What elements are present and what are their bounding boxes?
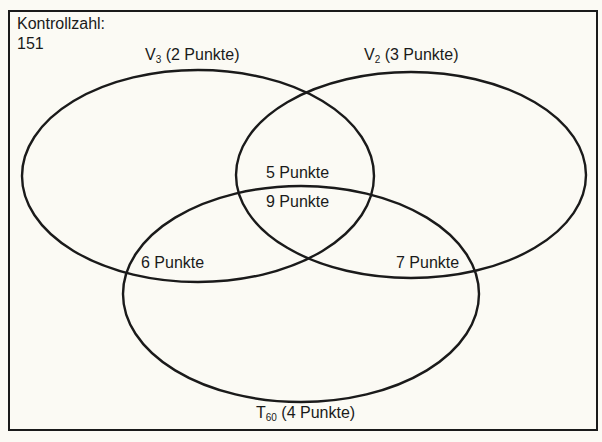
region-v3-t60: 6 Punkte [141, 254, 204, 272]
region-v3-v2-t60: 9 Punkte [266, 193, 329, 211]
venn-diagram [0, 0, 602, 442]
ellipse-t60 [123, 186, 479, 402]
control-value: 151 [17, 34, 105, 54]
set-label-v3: V3 (2 Punkte) [145, 46, 240, 64]
set-label-t60: T60 (4 Punkte) [256, 404, 355, 422]
region-v2-t60: 7 Punkte [396, 254, 459, 272]
set-label-v2: V2 (3 Punkte) [364, 46, 459, 64]
control-label: Kontrollzahl: [17, 14, 105, 34]
control-number: Kontrollzahl: 151 [17, 14, 105, 54]
region-v3-v2: 5 Punkte [266, 164, 329, 182]
